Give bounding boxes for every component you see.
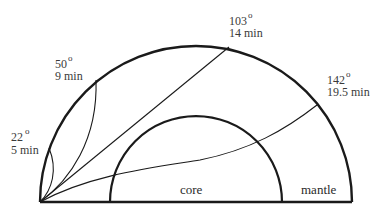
degree-50: o [68, 53, 73, 63]
degree-22: o [25, 126, 30, 136]
angle-22: 22 [11, 130, 23, 144]
mantle-label: mantle [301, 182, 337, 197]
earth-surface-arc [40, 46, 352, 202]
core-label: core [180, 182, 203, 197]
time-50: 9 min [55, 69, 83, 83]
time-142: 19.5 min [327, 85, 370, 99]
ray-142-path [40, 105, 317, 202]
time-22: 5 min [11, 143, 39, 157]
degree-103: o [248, 10, 253, 20]
earth-cross-section-diagram: 22 o 5 min 50 o 9 min 103 o 14 min 142 o… [0, 0, 384, 214]
label-50: 50 o 9 min [55, 53, 83, 83]
label-22: 22 o 5 min [11, 126, 39, 157]
label-142: 142 o 19.5 min [327, 69, 370, 99]
ray-50-path [40, 80, 96, 202]
time-103: 14 min [229, 26, 263, 40]
degree-142: o [346, 69, 351, 79]
label-103: 103 o 14 min [229, 10, 263, 40]
